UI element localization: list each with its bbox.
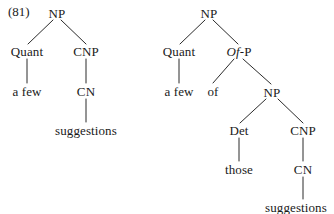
edge-right-np-quant [180,20,205,44]
right-tree-node-det: Det [229,124,248,137]
edge-right-ofp-of [213,59,234,83]
right-tree-node-inner-np: NP [264,86,281,99]
edge-left-np-cnp [61,20,86,44]
edge-right-np2-det [240,99,266,123]
right-tree-node-quant: Quant [163,45,195,58]
right-tree-node-cn: CN [294,163,312,176]
left-tree-node-np: NP [49,7,66,20]
right-tree-node-cnp: CNP [290,124,316,137]
right-tree-node-of-p: Of-P [227,45,252,58]
left-tree-node-cnp: CNP [73,45,99,58]
right-tree-leaf-of: of [207,85,218,98]
right-tree-leaf-those: those [225,163,253,176]
left-tree-node-cn: CN [77,85,95,98]
syntax-tree-figure: (81) NP Quant CNP a few CN suggestions N… [0,0,334,214]
of-p-suffix: -P [240,44,252,59]
right-tree-leaf-a-few: a few [164,85,193,98]
right-tree-node-np: NP [201,7,218,20]
edge-right-np2-cnp [278,99,303,123]
left-tree-leaf-suggestions: suggestions [55,124,117,137]
of-p-italic-head: Of [227,44,240,59]
left-tree-leaf-a-few: a few [12,85,41,98]
example-number: (81) [8,5,30,18]
right-tree-leaf-suggestions: suggestions [265,201,327,214]
tree-edge-layer [0,0,334,214]
edge-right-np-ofp [213,20,238,44]
edge-left-np-quant [28,20,53,44]
left-tree-node-quant: Quant [11,45,43,58]
edge-right-ofp-np [243,59,271,84]
